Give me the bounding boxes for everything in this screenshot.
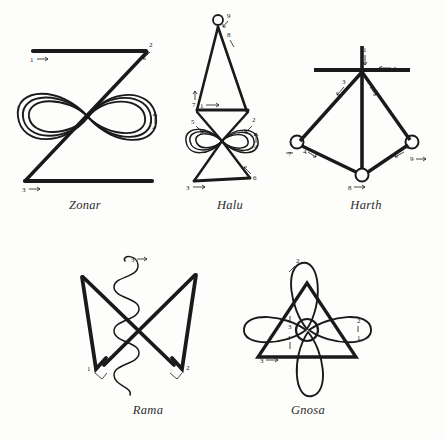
- caption-halu: Halu: [170, 198, 290, 213]
- rama-right-v: [172, 275, 196, 369]
- harth-label-1: 1: [363, 46, 367, 54]
- harth-labels: 1 2 3 5 7 4 6 9 8: [286, 46, 426, 192]
- halu-tri-right: [218, 27, 247, 112]
- harth-bottom-circle: [356, 169, 369, 182]
- harth-label-2: 2: [393, 65, 397, 73]
- zonar-infinity-loops: [18, 94, 156, 140]
- halu-label-3: 3: [186, 184, 190, 192]
- halu-arrow-8-icon: [230, 40, 234, 47]
- zonar-label-1: 1: [30, 56, 34, 64]
- caption-zonar: Zonar: [0, 198, 170, 213]
- rama-label-2: 2: [186, 364, 190, 372]
- harth-left-circle: [291, 136, 304, 149]
- halu-label-7: 7: [192, 101, 196, 109]
- rama-drawing: 3 1 2: [78, 245, 218, 405]
- gnosa-label-3-bottom: 3: [260, 357, 264, 365]
- rama-arrow-1-icon: [95, 373, 107, 379]
- halu-label-1: 1: [200, 102, 204, 110]
- rama-diagonal-down-left: [104, 275, 195, 365]
- symbol-plate: 1 2 4 3 Zonar: [0, 0, 446, 439]
- rama-label-3: 3: [131, 256, 135, 264]
- zonar-label-3: 3: [22, 186, 26, 194]
- halu-arrow-1-icon: [206, 103, 219, 107]
- harth-lower-right-edge: [368, 145, 408, 172]
- harth-label-6: 6: [406, 143, 410, 151]
- halu-tri-left: [197, 27, 218, 110]
- halu-label-5: 5: [191, 118, 195, 126]
- halu-arrow-7-icon: [193, 91, 197, 100]
- caption-harth: Harth: [286, 198, 446, 213]
- rama-arrow-2-icon: [170, 373, 182, 379]
- harth-label-8: 8: [348, 184, 352, 192]
- zonar-label-2: 2: [149, 41, 153, 49]
- halu-label-4: 4: [254, 143, 258, 151]
- halu-top-circle: [213, 15, 223, 25]
- caption-rama: Rama: [78, 403, 218, 418]
- caption-gnosa: Gnosa: [238, 403, 378, 418]
- rama-arrow-3-icon: [137, 257, 147, 261]
- gnosa-label-2-right: 2: [357, 317, 361, 325]
- gnosa-label-1-right: 1: [357, 334, 361, 342]
- gnosa-center-circle: [296, 319, 318, 341]
- halu-label-9: 9: [227, 12, 231, 20]
- zonar-arrow-3-icon: [29, 187, 40, 191]
- zonar-diagonal: [25, 52, 147, 181]
- symbol-rama: 3 1 2 Rama: [78, 245, 218, 405]
- symbol-harth: 1 2 3 5 7 4 6 9 8 Harth: [286, 0, 446, 200]
- rama-left-v: [82, 277, 106, 369]
- halu-drawing: 9 8 7 1 5 2 4 6 3: [170, 0, 290, 200]
- gnosa-drawing: 2 3 4 2 1 3: [238, 245, 378, 405]
- harth-label-9: 9: [410, 155, 414, 163]
- gnosa-label-4-center: 4: [287, 334, 291, 342]
- symbol-gnosa: 2 3 4 2 1 3 Gnosa: [238, 245, 378, 405]
- harth-arrow-8-icon: [354, 185, 365, 189]
- harth-label-3: 3: [342, 78, 346, 86]
- gnosa-labels: 2 3 4 2 1 3: [260, 257, 361, 365]
- symbol-zonar: 1 2 4 3 Zonar: [0, 0, 170, 200]
- symbol-halu: 9 8 7 1 5 2 4 6 3 Halu: [170, 0, 290, 200]
- zonar-drawing: 1 2 4 3: [0, 0, 170, 200]
- gnosa-label-3-center: 3: [288, 323, 292, 331]
- halu-arrow-9-icon: [223, 21, 228, 27]
- halu-label-8: 8: [227, 31, 231, 39]
- harth-arrow-9-icon: [416, 157, 426, 161]
- harth-left-diagonal: [300, 72, 362, 141]
- gnosa-label-2-top: 2: [296, 257, 300, 265]
- halu-label-6: 6: [253, 174, 257, 182]
- halu-label-2: 2: [252, 116, 256, 124]
- rama-diagonal-down-right: [83, 277, 174, 365]
- zonar-label-4: 4: [152, 124, 156, 132]
- halu-bottom-bar: [194, 178, 250, 181]
- harth-lower-left-edge: [302, 146, 356, 172]
- harth-label-5: 5: [367, 78, 371, 86]
- harth-label-4: 4: [303, 148, 307, 156]
- zonar-arrow-1-icon: [37, 57, 48, 61]
- rama-label-1: 1: [87, 365, 91, 373]
- halu-arrow-3-icon: [193, 185, 205, 189]
- harth-drawing: 1 2 3 5 7 4 6 9 8: [286, 0, 446, 200]
- harth-label-7: 7: [288, 150, 292, 158]
